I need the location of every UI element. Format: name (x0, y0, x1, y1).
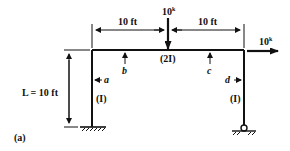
point-c-label: c (207, 65, 212, 76)
vertical-load-label: 10k (162, 6, 176, 17)
portal-frame-diagram: 10 ft 10 ft 10k 10k (2I) b c a d (I) (I)… (0, 0, 290, 151)
left-span-label: 10 ft (118, 16, 138, 27)
beam-stiffness-label: (2I) (160, 53, 176, 65)
right-span-label: 10 ft (198, 16, 218, 27)
right-column-stiffness-label: (I) (230, 93, 241, 105)
point-a-label: a (104, 74, 109, 85)
height-dimension (64, 50, 90, 127)
point-d-label: d (225, 74, 231, 85)
height-label: L = 10 ft (22, 87, 59, 98)
point-b-label: b (122, 65, 127, 76)
fixed-support-icon (80, 127, 106, 131)
figure-caption: (a) (14, 132, 26, 144)
left-column-stiffness-label: (I) (96, 93, 107, 105)
horizontal-load-label: 10k (259, 36, 273, 47)
pin-support-icon (232, 125, 256, 135)
